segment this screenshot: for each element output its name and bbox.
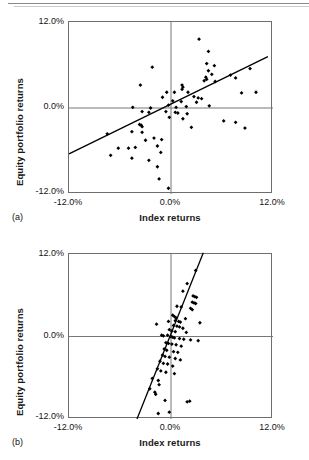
scatter-point [196, 339, 200, 343]
figure-page: Equity portfolio returns 12.0% 0.0% -12.… [0, 0, 309, 460]
panel-a-x-tick-right: 12.0% [246, 197, 298, 207]
scatter-point [159, 369, 163, 373]
scatter-point [176, 350, 180, 354]
scatter-point [167, 319, 171, 323]
scatter-point [130, 156, 134, 160]
scatter-point [190, 125, 194, 129]
scatter-point [172, 350, 176, 354]
scatter-point [152, 136, 156, 140]
panel-b-x-tick-mid: 0.0% [144, 422, 196, 432]
scatter-point [234, 76, 238, 80]
panel-b-y-tick-top: 12.0% [26, 248, 64, 258]
panel-a-y-tick-mid: 0.0% [26, 101, 64, 111]
scatter-point [207, 69, 211, 73]
scatter-point [140, 130, 144, 134]
scatter-point [109, 153, 113, 157]
scatter-point [234, 120, 238, 124]
scatter-point [182, 337, 186, 341]
panel-b-plot-svg [69, 254, 273, 419]
panel-b-y-axis-label: Equity portfolio returns [14, 308, 25, 416]
scatter-point [150, 65, 154, 69]
scatter-point [157, 177, 161, 181]
scatter-point [178, 337, 182, 341]
scatter-point [173, 90, 177, 94]
scatter-point [184, 330, 188, 334]
scatter-point [159, 151, 163, 155]
scatter-point [210, 72, 214, 76]
scatter-point [178, 358, 182, 362]
scatter-point [181, 326, 185, 330]
scatter-point [131, 105, 135, 109]
scatter-point [240, 91, 244, 95]
scatter-point [116, 146, 120, 150]
scatter-panel-b: Equity portfolio returns 12.0% 0.0% -12.… [0, 230, 309, 460]
scatter-point [174, 343, 178, 347]
panel-b-plot-area [68, 253, 272, 418]
scatter-point [156, 165, 160, 169]
panel-b-x-axis-label: Index returns [104, 437, 236, 448]
panel-a-plot-svg [69, 22, 273, 194]
scatter-point [200, 97, 204, 101]
panel-a-x-tick-left: -12.0% [40, 197, 96, 207]
scatter-point [207, 104, 211, 108]
scatter-point [192, 95, 196, 99]
scatter-point [195, 100, 199, 104]
panel-a-zero-axes [69, 22, 273, 194]
panel-a-x-axis-label: Index returns [104, 212, 236, 223]
scatter-point [157, 383, 161, 387]
scatter-point [147, 158, 151, 162]
scatter-point [186, 90, 190, 94]
scatter-point [175, 304, 179, 308]
scatter-point [161, 95, 165, 99]
scatter-point [254, 90, 258, 94]
scatter-point [139, 83, 143, 87]
panel-b-y-tick-bottom: -12.0% [22, 411, 64, 421]
scatter-point [198, 321, 202, 325]
panel-b-points [148, 269, 202, 416]
scatter-point [166, 362, 170, 366]
scatter-point [140, 110, 144, 114]
panel-b-y-tick-mid: 0.0% [26, 330, 64, 340]
scatter-point [164, 110, 168, 114]
scatter-point [173, 372, 177, 376]
panel-a-plot-area [68, 21, 272, 193]
scatter-point [156, 412, 160, 416]
scatter-point [144, 138, 148, 142]
scatter-point [127, 146, 131, 150]
scatter-point [164, 370, 168, 374]
scatter-point [173, 330, 177, 334]
panel-a-y-tick-bottom: -12.0% [22, 186, 64, 196]
scatter-point [173, 357, 177, 361]
scatter-point [174, 105, 178, 109]
panel-b-x-tick-left: -12.0% [40, 422, 96, 432]
scatter-point [133, 146, 137, 150]
panel-a-points [105, 37, 258, 190]
scatter-panel-a: Equity portfolio returns 12.0% 0.0% -12.… [0, 0, 309, 230]
scatter-point [189, 338, 193, 342]
scatter-point [185, 112, 189, 116]
scatter-point [243, 126, 247, 130]
scatter-point [179, 344, 183, 348]
scatter-point [156, 379, 160, 383]
scatter-point [197, 37, 201, 41]
scatter-point [196, 96, 200, 100]
scatter-point [149, 106, 153, 110]
panel-a-y-tick-top: 12.0% [26, 16, 64, 26]
scatter-point [155, 322, 159, 326]
scatter-point [207, 49, 211, 53]
scatter-point [165, 90, 169, 94]
scatter-point [184, 317, 188, 321]
scatter-point [212, 64, 216, 68]
scatter-point [248, 67, 252, 71]
scatter-point [167, 186, 171, 190]
scatter-point [158, 359, 162, 363]
panel-a-letter: (a) [12, 212, 23, 222]
scatter-point [130, 130, 134, 134]
scatter-point [185, 282, 189, 286]
scatter-point [161, 361, 165, 365]
panel-b-x-tick-right: 12.0% [246, 422, 298, 432]
scatter-point [156, 144, 160, 148]
panel-a-y-axis-label: Equity portfolio returns [14, 78, 25, 186]
panel-b-letter: (b) [12, 437, 23, 447]
scatter-point [222, 119, 226, 123]
